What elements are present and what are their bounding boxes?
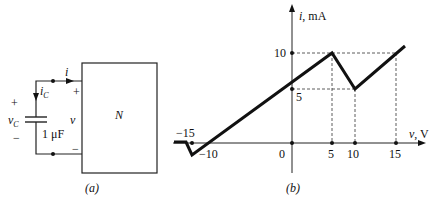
circuit-diagram: i iC + + vC − v 1 μF − N (a) (8, 63, 157, 195)
iv-graph: −15 −10 0 5 10 15 10 5 i, mA v, V (b) (173, 4, 429, 195)
y-axis-label: i, mA (299, 9, 327, 23)
cap-current-arrow-icon (33, 93, 39, 101)
x-axis-label: v, V (409, 127, 429, 141)
x-tick-5: 5 (328, 147, 334, 161)
y-axis-arrow-icon (289, 4, 295, 12)
port-minus: − (72, 142, 79, 156)
caption-a: (a) (85, 181, 99, 195)
capacitance-label: 1 μF (42, 127, 64, 141)
cap-plus: + (11, 96, 18, 110)
x-tick-0: 0 (279, 147, 285, 161)
network-label: N (114, 108, 124, 122)
port-plus: + (73, 85, 80, 99)
y-tick-10: 10 (274, 46, 286, 60)
current-label: i (65, 65, 68, 79)
figure: i iC + + vC − v 1 μF − N (a) (0, 0, 445, 207)
cap-voltage-label: vC (8, 113, 19, 129)
port-voltage-label: v (70, 113, 76, 127)
node-bottom (51, 152, 55, 156)
tick-dots (190, 51, 398, 145)
y-tick-5: 5 (296, 90, 302, 104)
iv-curve (174, 46, 405, 155)
caption-b: (b) (286, 181, 300, 195)
x-tick-neg10: −10 (199, 147, 218, 161)
cap-current-label: iC (40, 84, 49, 100)
x-tick-10: 10 (347, 147, 359, 161)
x-tick-15: 15 (389, 147, 401, 161)
cap-minus: − (13, 131, 20, 145)
node-top (51, 79, 55, 83)
x-tick-neg15: −15 (176, 126, 195, 140)
